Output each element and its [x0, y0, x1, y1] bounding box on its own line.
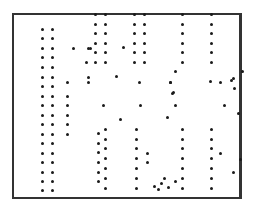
dot: [104, 187, 107, 190]
dot: [241, 70, 244, 73]
dot: [51, 56, 54, 59]
dot: [133, 13, 136, 16]
dot: [51, 114, 54, 117]
dot: [115, 75, 118, 78]
dot: [97, 142, 100, 145]
dot: [133, 61, 136, 64]
dot: [104, 167, 107, 170]
dot: [41, 56, 44, 59]
dot: [210, 157, 213, 160]
dot: [41, 142, 44, 145]
dot: [104, 157, 107, 160]
dot: [66, 81, 69, 84]
dot: [72, 47, 75, 50]
dot: [181, 157, 184, 160]
dot: [51, 28, 54, 31]
dot: [210, 42, 213, 45]
dot: [51, 171, 54, 174]
dot: [97, 132, 100, 135]
dot: [41, 37, 44, 40]
dot: [209, 80, 212, 83]
dot: [181, 61, 184, 64]
dot: [104, 13, 107, 16]
dot: [153, 185, 156, 188]
dot: [210, 177, 213, 180]
dot: [41, 47, 44, 50]
dot: [210, 187, 213, 190]
dot: [41, 180, 44, 183]
dot: [181, 167, 184, 170]
dot: [94, 61, 97, 64]
dot: [181, 128, 184, 131]
dot: [135, 177, 138, 180]
dot: [104, 61, 107, 64]
dot: [139, 104, 142, 107]
dot: [210, 13, 213, 16]
dot: [146, 161, 149, 164]
dot: [104, 42, 107, 45]
dot: [51, 66, 54, 69]
dot: [51, 47, 54, 50]
dot: [174, 104, 177, 107]
dot: [133, 42, 136, 45]
dot: [210, 32, 213, 35]
dot: [66, 104, 69, 107]
dot: [89, 47, 92, 50]
dot: [41, 114, 44, 117]
dot: [135, 128, 138, 131]
dot: [146, 152, 149, 155]
dot: [94, 42, 97, 45]
dot: [51, 142, 54, 145]
dot: [41, 152, 44, 155]
dot: [66, 133, 69, 136]
dot: [104, 32, 107, 35]
dot: [41, 28, 44, 31]
dot: [41, 66, 44, 69]
dot: [232, 77, 235, 80]
dot: [223, 104, 226, 107]
dot: [51, 76, 54, 79]
dot-pattern: [0, 0, 254, 214]
dot: [143, 51, 146, 54]
dot: [135, 147, 138, 150]
dot: [232, 171, 235, 174]
dot: [97, 161, 100, 164]
dot: [94, 32, 97, 35]
dot: [104, 51, 107, 54]
dot: [239, 158, 242, 161]
dot: [51, 37, 54, 40]
dot: [167, 186, 170, 189]
dot: [41, 189, 44, 192]
dot: [97, 151, 100, 154]
dot: [41, 95, 44, 98]
dot: [210, 51, 213, 54]
dot: [66, 95, 69, 98]
dot: [169, 81, 172, 84]
dot: [51, 180, 54, 183]
dot: [51, 95, 54, 98]
dot: [174, 70, 177, 73]
dot: [133, 51, 136, 54]
dot: [181, 187, 184, 190]
dot: [143, 23, 146, 26]
dot: [210, 147, 213, 150]
dot: [51, 85, 54, 88]
dot: [135, 157, 138, 160]
dot: [51, 123, 54, 126]
dot: [94, 23, 97, 26]
dot: [181, 177, 184, 180]
dot: [51, 189, 54, 192]
dot: [41, 76, 44, 79]
dot: [135, 187, 138, 190]
dot: [210, 167, 213, 170]
dot: [160, 182, 163, 185]
dot: [133, 32, 136, 35]
dot: [66, 123, 69, 126]
dot: [210, 61, 213, 64]
dot: [210, 128, 213, 131]
dot: [94, 13, 97, 16]
dot: [51, 133, 54, 136]
dot: [104, 147, 107, 150]
dot: [104, 177, 107, 180]
dot: [143, 32, 146, 35]
